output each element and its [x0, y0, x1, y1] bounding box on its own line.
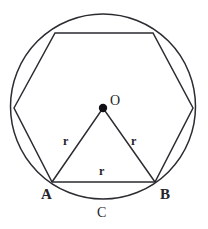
figure-canvas	[0, 0, 208, 229]
arc-label-c: C	[97, 206, 106, 220]
radius-label-base: r	[99, 165, 104, 177]
vertex-label-a: A	[41, 187, 52, 202]
radius-label-right: r	[131, 135, 136, 147]
vertex-label-b: B	[160, 187, 170, 202]
geometry-figure: O A B C r r r	[0, 0, 208, 229]
radius-label-left: r	[63, 135, 68, 147]
center-point-dot	[99, 104, 107, 112]
center-label-o: O	[110, 94, 120, 108]
